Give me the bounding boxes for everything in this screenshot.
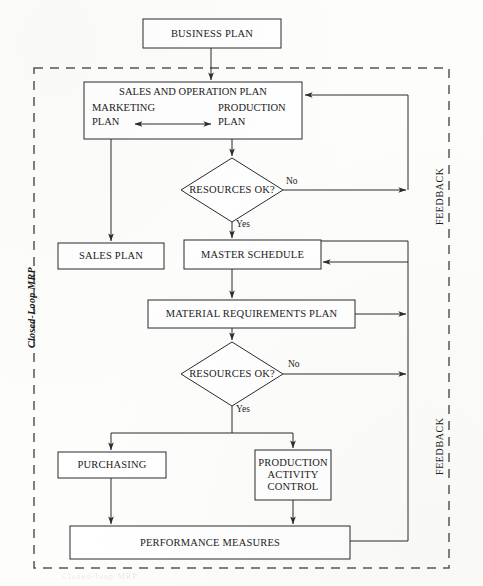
marketing-plan-line2: PLAN — [92, 115, 155, 129]
sales-operation-plan-title: SALES AND OPERATION PLAN — [84, 86, 302, 97]
flowchart-canvas: BUSINESS PLAN SALES AND OPERATION PLAN M… — [0, 0, 483, 586]
closed-loop-mrp-label: Closed-Loop MRP — [26, 267, 37, 348]
purchasing-box[interactable] — [58, 452, 166, 478]
feedback-label-upper: FEEDBACK — [434, 167, 445, 225]
production-plan-line1: PRODUCTION — [218, 101, 286, 115]
resources-ok-diamond-upper[interactable] — [181, 158, 283, 222]
marketing-plan-line1: MARKETING — [92, 101, 155, 115]
material-requirements-plan-box[interactable] — [148, 300, 355, 328]
edge-label-no-upper: No — [286, 176, 298, 186]
edge-label-yes-lower: Yes — [236, 404, 250, 414]
production-plan-label: PRODUCTION PLAN — [218, 101, 286, 129]
production-plan-line2: PLAN — [218, 115, 286, 129]
performance-measures-box[interactable] — [70, 526, 350, 559]
marketing-plan-label: MARKETING PLAN — [92, 101, 155, 129]
caption-ghost-text: Closed-loop MRP — [62, 572, 138, 581]
resources-ok-diamond-lower[interactable] — [181, 342, 283, 406]
production-activity-control-box[interactable] — [255, 450, 331, 500]
edge-label-no-lower: No — [288, 359, 300, 369]
feedback-loop-upper — [305, 95, 408, 190]
master-schedule-box[interactable] — [184, 240, 321, 269]
feedback-bus-lower — [350, 241, 408, 541]
edge-label-yes-upper: Yes — [236, 219, 250, 229]
business-plan-box[interactable] — [143, 19, 281, 48]
feedback-label-lower: FEEDBACK — [434, 417, 445, 475]
sales-plan-box[interactable] — [58, 243, 164, 269]
